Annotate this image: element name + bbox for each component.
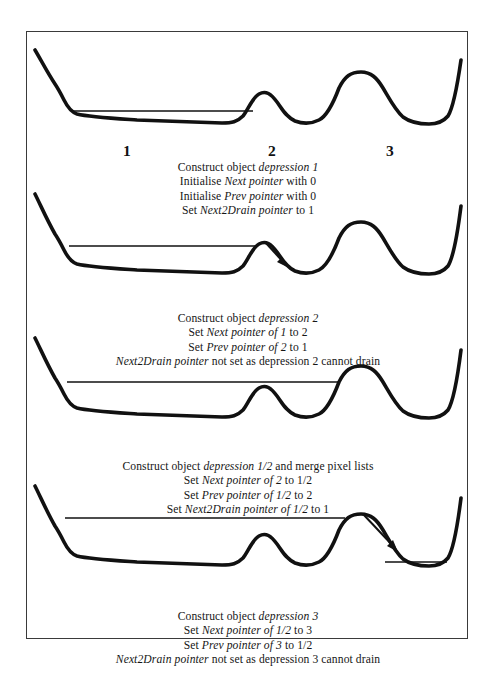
caption-line: Next2Drain pointer not set as depression… xyxy=(27,653,469,667)
caption-text: not set as depression 3 cannot drain xyxy=(209,653,380,666)
caption-text: and merge pixel lists xyxy=(272,460,373,473)
caption-line: Construct object depression 1 xyxy=(27,161,469,175)
terrain-profile-3 xyxy=(35,338,461,418)
terrain-profile-4 xyxy=(35,486,461,566)
figure-page: { "figure": { "title_absent": true, "bac… xyxy=(0,0,494,675)
caption-emphasis: depression 2 xyxy=(259,312,319,325)
caption-line: Construct object depression 1/2 and merg… xyxy=(27,460,469,474)
caption-panel-4: Construct object depression 3 Set Next p… xyxy=(27,610,469,667)
caption-emphasis: Next2Drain pointer xyxy=(116,653,209,666)
caption-text: Set xyxy=(184,639,202,652)
caption-emphasis: depression 1 xyxy=(259,161,319,174)
caption-line: Construct object depression 3 xyxy=(27,610,469,624)
caption-text: Construct object xyxy=(122,460,203,473)
terrain-svg-2 xyxy=(27,184,469,294)
terrain-svg-1 xyxy=(27,32,469,142)
figure-frame: 1 2 3 Construct object depression 1 Init… xyxy=(26,31,468,639)
caption-text: Set xyxy=(184,624,202,637)
caption-text: Construct object xyxy=(178,610,259,623)
caption-emphasis: depression 1/2 xyxy=(203,460,272,473)
caption-emphasis: depression 3 xyxy=(259,610,319,623)
diagram-panel-1: 1 2 3 xyxy=(27,32,469,182)
terrain-profile-2 xyxy=(35,194,461,274)
spill-arrow-2 xyxy=(265,242,287,267)
depression-label-3: 3 xyxy=(386,142,394,160)
caption-emphasis: Prev pointer of 3 xyxy=(202,639,282,652)
terrain-profile-1 xyxy=(35,50,461,124)
caption-text: to 1/2 xyxy=(282,639,312,652)
depression-label-1: 1 xyxy=(123,142,131,160)
caption-text: Construct object xyxy=(178,161,259,174)
caption-text: Construct object xyxy=(178,312,259,325)
caption-emphasis: Next pointer of 1/2 xyxy=(202,624,291,637)
diagram-panel-2 xyxy=(27,184,469,324)
spill-arrow-4 xyxy=(363,514,398,552)
terrain-svg-3 xyxy=(27,332,469,442)
caption-text: to 3 xyxy=(291,624,312,637)
depression-label-2: 2 xyxy=(268,142,276,160)
caption-line: Set Next pointer of 1/2 to 3 xyxy=(27,624,469,638)
caption-line: Set Prev pointer of 3 to 1/2 xyxy=(27,639,469,653)
terrain-svg-4 xyxy=(27,482,469,592)
diagram-panel-4 xyxy=(27,482,469,622)
diagram-panel-3 xyxy=(27,332,469,462)
caption-line: Construct object depression 2 xyxy=(27,312,469,326)
